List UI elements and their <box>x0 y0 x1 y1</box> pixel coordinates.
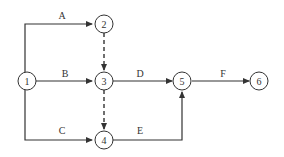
node-1: 1 <box>18 72 36 90</box>
activity-e-arrow <box>112 92 182 140</box>
activity-b-label: B <box>62 68 69 79</box>
activity-a-label: A <box>58 10 66 21</box>
node-6-label: 6 <box>257 76 262 87</box>
node-1-label: 1 <box>25 76 30 87</box>
activity-f-label: F <box>220 68 226 79</box>
activity-d-label: D <box>136 68 143 79</box>
network-diagram: A B C D E F 1 2 3 4 5 6 <box>0 0 284 157</box>
node-4-label: 4 <box>102 135 107 146</box>
node-3: 3 <box>95 72 113 90</box>
node-6: 6 <box>250 72 268 90</box>
activity-e-label: E <box>137 125 143 136</box>
activity-c-label: C <box>59 125 66 136</box>
node-2: 2 <box>95 15 113 33</box>
node-5-label: 5 <box>180 76 185 87</box>
node-3-label: 3 <box>102 76 107 87</box>
node-2-label: 2 <box>102 19 107 30</box>
node-4: 4 <box>95 131 113 149</box>
activity-a-arrow <box>25 24 92 72</box>
node-5: 5 <box>173 72 191 90</box>
